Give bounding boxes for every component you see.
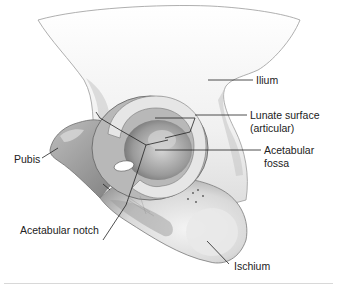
label-lunate-surface-articular: (articular): [250, 122, 294, 134]
label-acetabular-fossa-line2: fossa: [264, 157, 289, 169]
bottom-divider: [4, 283, 333, 284]
label-ilium: Ilium: [256, 74, 278, 86]
label-pubis: Pubis: [14, 153, 40, 165]
hip-bone-illustration: Ilium Lunate surface (articular) Acetabu…: [0, 0, 337, 287]
label-acetabular-fossa: Acetabular: [264, 144, 314, 156]
label-lunate-surface: Lunate surface: [250, 109, 319, 121]
label-acetabular-notch: Acetabular notch: [20, 224, 99, 236]
label-ischium: Ischium: [234, 260, 270, 272]
